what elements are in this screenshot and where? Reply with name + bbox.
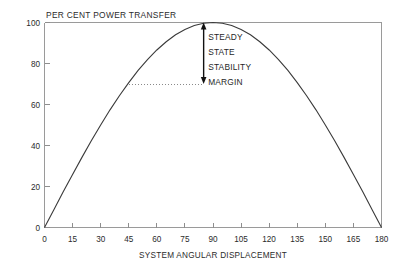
y-tick-label: 20 (31, 183, 41, 192)
x-tick-label: 105 (234, 235, 248, 244)
annotation-line-1: STEADY (208, 32, 243, 42)
x-tick-label: 30 (96, 235, 106, 244)
power-angle-chart-figure: 100 80 60 40 20 0 0 15 30 (0, 0, 397, 271)
y-tick-label: 60 (31, 101, 41, 110)
chart-svg: 100 80 60 40 20 0 0 15 30 (0, 0, 397, 271)
chart-title: PER CENT POWER TRANSFER (46, 10, 176, 20)
annotation-line-2: STATE (208, 47, 235, 57)
x-tick-label: 75 (180, 235, 190, 244)
x-tick-label: 120 (262, 235, 276, 244)
annotation-line-3: STABILITY (208, 62, 251, 72)
x-tick-label: 165 (347, 235, 361, 244)
x-tick-label: 15 (68, 235, 78, 244)
y-tick-label: 100 (26, 19, 40, 28)
x-tick-label: 150 (318, 235, 332, 244)
x-tick-label: 45 (124, 235, 134, 244)
x-tick-label: 90 (208, 235, 218, 244)
y-tick-label: 80 (31, 60, 41, 69)
x-tick-label: 60 (152, 235, 162, 244)
chart-background (0, 0, 397, 271)
y-tick-label: 0 (35, 224, 40, 233)
x-axis-title: SYSTEM ANGULAR DISPLACEMENT (139, 251, 287, 260)
y-tick-label: 40 (31, 142, 41, 151)
x-tick-label: 135 (290, 235, 304, 244)
x-tick-label: 0 (42, 235, 47, 244)
x-tick-label: 180 (375, 235, 389, 244)
annotation-line-4: MARGIN (208, 77, 243, 87)
